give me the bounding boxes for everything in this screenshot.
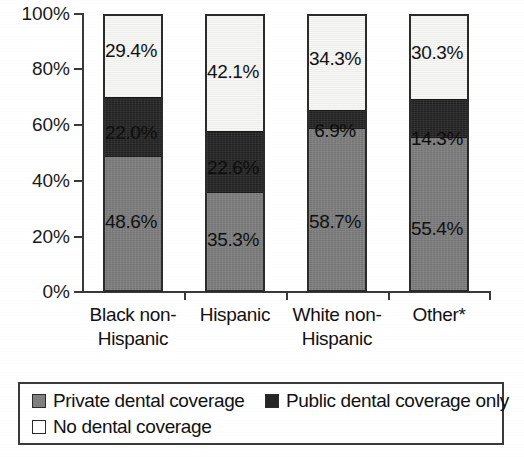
legend-item-public-dental-coverage-only[interactable]: Public dental coverage only [265,390,509,412]
segment-private-dental-coverage[interactable] [309,129,365,290]
x-axis-category-other: Other* [364,303,514,327]
bar-label-white-public: 6.9% [307,120,363,142]
bar-label-other-public: 14.3% [409,128,465,150]
legend-item-no-dental-coverage[interactable]: No dental coverage [32,416,211,438]
legend-label-none: No dental coverage [53,416,211,438]
bar-label-black-private: 48.6% [103,211,159,233]
legend-swatch-private-icon [32,394,46,408]
y-axis-tick-0 [74,291,82,293]
y-axis-label-100: 100% [0,3,70,25]
legend-label-private: Private dental coverage [53,390,245,412]
legend-swatch-public-icon [265,394,279,408]
segment-private-dental-coverage[interactable] [411,138,467,290]
chart-legend: Private dental coverage Public dental co… [18,382,504,445]
category-line-2: Hispanic [262,327,412,351]
bar-label-black-public: 22.0% [103,122,159,144]
y-axis-tick-60 [74,124,82,126]
y-axis-label-60: 60% [0,114,70,136]
stacked-bar-chart: 100% 80% 60% 40% 20% 0% 29.4% 22.0% 48.6… [0,0,524,457]
x-axis-tick-2 [286,292,288,300]
y-axis-label-0: 0% [0,281,70,303]
category-line-2: Hispanic [58,327,208,351]
y-axis-label-80: 80% [0,58,70,80]
y-axis-label-20: 20% [0,226,70,248]
bar-label-hispanic-public: 22.6% [205,157,261,179]
bar-label-other-no-coverage: 30.3% [409,42,465,64]
bar-label-white-no-coverage: 34.3% [307,48,363,70]
legend-label-public: Public dental coverage only [286,390,509,412]
y-axis-line [82,13,84,293]
bar-label-hispanic-private: 35.3% [205,229,261,251]
y-axis-tick-40 [74,180,82,182]
x-axis-tick-1 [184,292,186,300]
y-axis-tick-80 [74,68,82,70]
bar-label-hispanic-no-coverage: 42.1% [205,61,261,83]
legend-swatch-none-icon [32,420,46,434]
x-axis-tick-3 [388,292,390,300]
y-axis-tick-20 [74,236,82,238]
bar-label-white-private: 58.7% [307,211,363,233]
x-axis-tick-4 [489,292,491,300]
bar-label-other-private: 55.4% [409,218,465,240]
y-axis-label-40: 40% [0,170,70,192]
bar-label-black-no-coverage: 29.4% [103,40,159,62]
y-axis-tick-100 [74,13,82,15]
category-line-1: Other* [364,303,514,327]
legend-item-private-dental-coverage[interactable]: Private dental coverage [32,390,245,412]
